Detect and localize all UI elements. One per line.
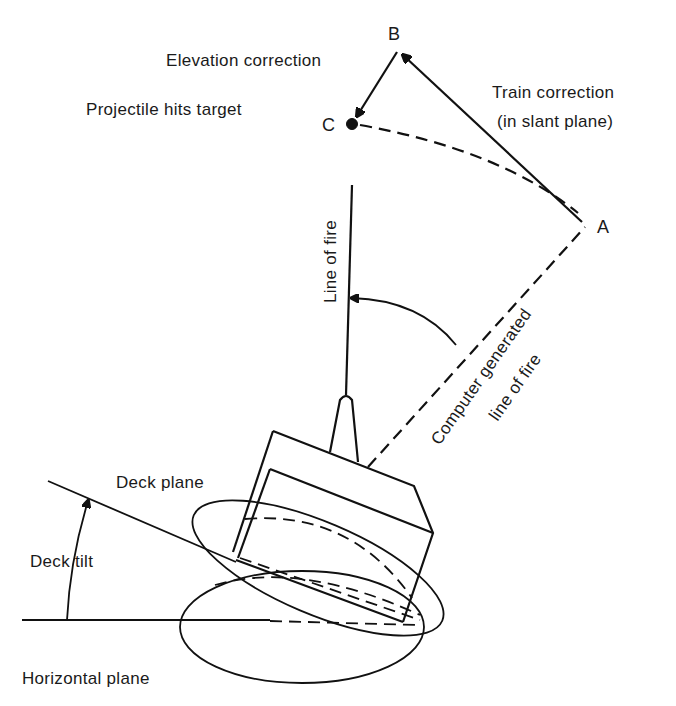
gun-mount-box-inner-top xyxy=(270,469,433,533)
train-correction-vector xyxy=(403,55,582,222)
point-c-label: C xyxy=(322,116,335,134)
gun-mount-box-front-edge xyxy=(233,431,273,552)
correction-angle-arc xyxy=(352,298,456,345)
gun-mount-box-left-face xyxy=(238,469,270,558)
horizontal-plane-label: Horizontal plane xyxy=(22,670,150,687)
elevation-correction-vector xyxy=(357,52,397,116)
deck-tilt-label: Deck tilt xyxy=(30,553,93,570)
computer-generated-line-of-fire xyxy=(368,227,585,467)
point-c-marker xyxy=(347,119,358,130)
deck-plane-label: Deck plane xyxy=(116,474,204,491)
slant-plane-label: (in slant plane) xyxy=(497,113,613,130)
gun-mount-box-outline xyxy=(273,431,433,622)
gun-barrel-base xyxy=(330,396,358,462)
deck-plane-ellipse xyxy=(176,473,460,663)
slant-plane-arc xyxy=(360,125,578,213)
line-of-fire xyxy=(346,185,352,395)
fire-control-diagram: B C A Elevation correction Projectile hi… xyxy=(0,0,676,706)
point-a-label: A xyxy=(597,218,609,236)
train-correction-label: Train correction xyxy=(492,84,614,101)
line-of-fire-label: Line of fire xyxy=(322,220,339,303)
point-b-label: B xyxy=(388,25,400,43)
elevation-correction-label: Elevation correction xyxy=(166,52,321,69)
horizontal-plane-line-hidden xyxy=(270,621,420,625)
projectile-hits-target-label: Projectile hits target xyxy=(86,101,242,118)
horizontal-plane-ellipse xyxy=(180,571,424,683)
